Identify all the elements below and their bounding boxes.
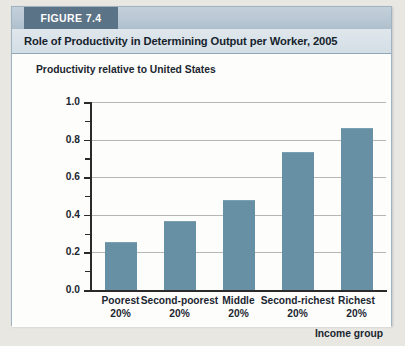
bar: [164, 221, 196, 290]
bar: [341, 128, 373, 290]
figure-number-tag: FIGURE 7.4: [24, 7, 118, 29]
y-axis-tick-label: 1.0: [40, 96, 80, 107]
category-name: Richest: [338, 295, 375, 306]
x-axis-line: [90, 290, 387, 292]
y-axis-tick-label: 0.0: [40, 284, 80, 295]
x-axis-title: Income group: [315, 328, 383, 339]
bar: [282, 152, 314, 290]
x-axis-category-label: Richest20%: [309, 295, 405, 320]
y-axis-tick-label: 0.6: [40, 171, 80, 182]
chart-plot-region: Productivity relative to United States 1…: [12, 54, 391, 327]
bar: [223, 200, 255, 290]
figure-title-bar: Role of Productivity in Determining Outp…: [12, 29, 391, 54]
y-axis-tick-label: 0.4: [40, 209, 80, 220]
figure-number-label: FIGURE 7.4: [40, 12, 101, 24]
figure-header-band: FIGURE 7.4: [12, 7, 391, 29]
bars-container: [91, 102, 386, 290]
y-axis-tick-label: 0.2: [40, 246, 80, 257]
y-axis-tick-label: 0.8: [40, 134, 80, 145]
y-axis-title: Productivity relative to United States: [36, 64, 216, 75]
bar: [105, 242, 137, 290]
figure-card: FIGURE 7.4 Role of Productivity in Deter…: [11, 6, 392, 326]
category-percent: 20%: [309, 308, 405, 321]
figure-title: Role of Productivity in Determining Outp…: [24, 35, 337, 47]
